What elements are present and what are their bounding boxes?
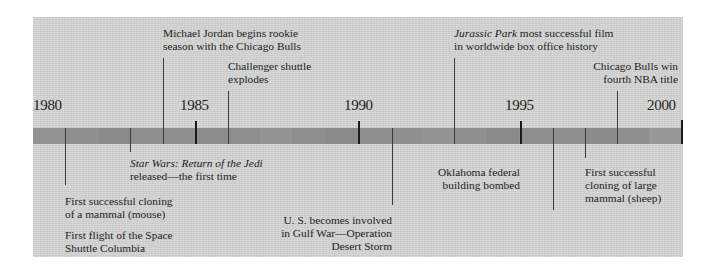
event-line-1998 — [617, 91, 618, 144]
event-line-1997 — [585, 128, 586, 158]
bar-segment — [422, 128, 454, 144]
event-line-1983 — [130, 128, 131, 152]
year-tick-1990 — [358, 121, 360, 144]
year-tick-1985 — [195, 121, 197, 144]
event-line-1991 — [392, 128, 393, 205]
event-label-1995: Oklahoma federal building bombed — [420, 166, 520, 192]
event-label-1991: U. S. becomes involved in Gulf War—Opera… — [262, 214, 392, 253]
bar-segment — [195, 128, 227, 144]
event-text-line: mammal (sheep) — [585, 192, 661, 205]
year-label-1995: 1995 — [505, 97, 534, 114]
event-line-1986 — [228, 91, 229, 144]
event-text-line: Desert Storm — [262, 240, 392, 253]
event-text-line: First successful — [585, 166, 661, 179]
bar-segment — [33, 128, 65, 144]
event-label-1981-columbia: First flight of the Space Shuttle Columb… — [65, 229, 173, 255]
year-tick-2000 — [681, 120, 683, 144]
event-label-1984: Michael Jordan begins rookie season with… — [163, 27, 301, 53]
event-text-line: of a mammal (mouse) — [65, 208, 173, 221]
event-text-line: Chicago Bulls win — [575, 60, 678, 73]
event-label-1986: Challenger shuttle explodes — [228, 60, 311, 86]
year-label-2000: 2000 — [647, 97, 676, 114]
bar-segment — [649, 128, 682, 144]
event-text-line: in Gulf War—Operation — [262, 227, 392, 240]
event-line-1981 — [65, 128, 66, 185]
event-line-1996 — [553, 128, 554, 210]
event-label-1997: First successful cloning of large mammal… — [585, 166, 661, 205]
event-text-line: released—the first time — [130, 170, 263, 183]
event-text-line: Oklahoma federal — [420, 166, 520, 179]
film-title: Star Wars: Return of the Jedi — [130, 157, 263, 169]
year-label-1985: 1985 — [180, 97, 209, 114]
event-text-line: cloning of large — [585, 179, 661, 192]
event-text-line: fourth NBA title — [575, 73, 678, 86]
bar-segment — [584, 128, 616, 144]
bar-segment — [325, 128, 357, 144]
bar-segment — [260, 128, 292, 144]
event-text-line: Shuttle Columbia — [65, 242, 173, 255]
event-text-line: Challenger shuttle — [228, 60, 311, 73]
event-text-line: explodes — [228, 73, 311, 86]
event-text-line: season with the Chicago Bulls — [163, 40, 301, 53]
event-text-line: Michael Jordan begins rookie — [163, 27, 301, 40]
year-tick-1995 — [520, 121, 522, 144]
event-text-line: U. S. becomes involved — [262, 214, 392, 227]
event-line-1993 — [454, 58, 455, 144]
event-text-line: First flight of the Space — [65, 229, 173, 242]
event-label-1998: Chicago Bulls win fourth NBA title — [575, 60, 678, 86]
year-label-1990: 1990 — [344, 97, 373, 114]
event-label-1983: Star Wars: Return of the Jedi released—t… — [130, 157, 263, 183]
event-text-line: First successful cloning — [65, 195, 173, 208]
event-text-rest: most successful film — [517, 27, 614, 39]
event-text-line: Jurassic Park most successful film — [454, 27, 613, 40]
event-text-line: in worldwide box office history — [454, 40, 613, 53]
event-line-1984 — [163, 58, 164, 144]
event-text-line: building bombed — [420, 179, 520, 192]
event-text-line: Star Wars: Return of the Jedi — [130, 157, 263, 170]
bar-segment — [98, 128, 130, 144]
film-title: Jurassic Park — [454, 27, 517, 39]
year-label-1980: 1980 — [33, 97, 62, 114]
bar-segment — [487, 128, 519, 144]
event-label-1981-cloning: First successful cloning of a mammal (mo… — [65, 195, 173, 221]
event-label-1993: Jurassic Park most successful film in wo… — [454, 27, 613, 53]
